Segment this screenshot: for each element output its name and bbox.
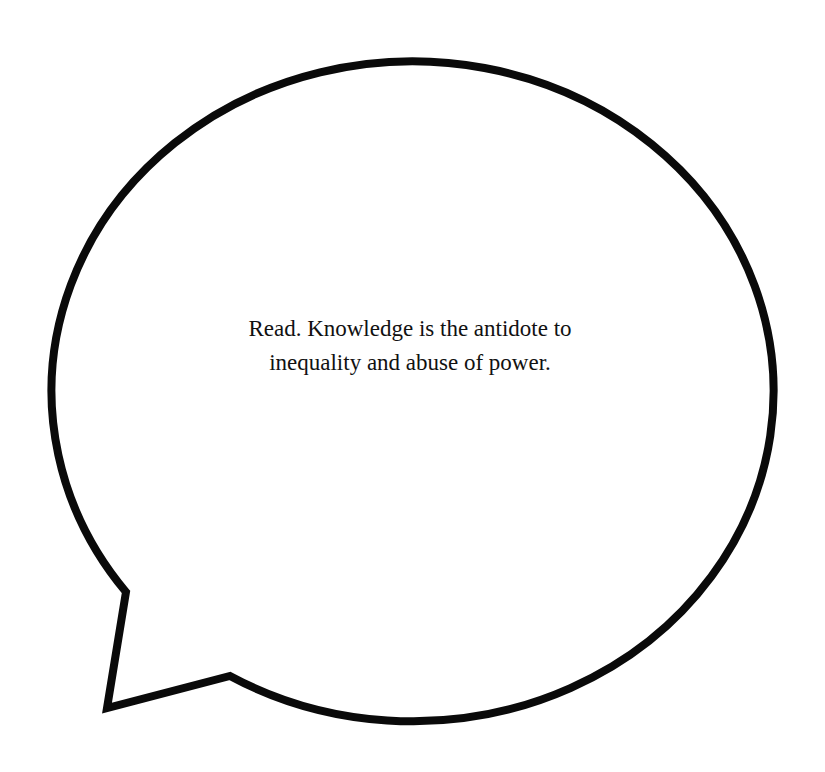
speech-bubble-outline [52, 61, 774, 721]
speech-bubble-text: Read. Knowledge is the antidote to inequ… [150, 312, 670, 380]
text-line-1: Read. Knowledge is the antidote to [150, 312, 670, 346]
speech-bubble-shape [0, 0, 825, 772]
text-line-2: inequality and abuse of power. [150, 346, 670, 380]
